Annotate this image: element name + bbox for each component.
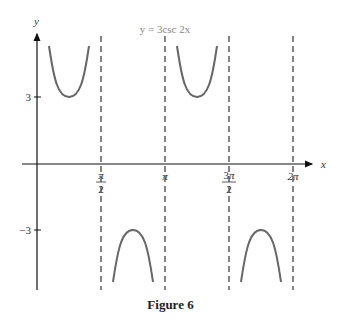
svg-text:π: π — [98, 169, 104, 181]
svg-text:π: π — [162, 170, 168, 182]
asymptotes — [101, 36, 293, 290]
chart-title: y = 3csc 2x — [140, 23, 191, 35]
x-axis-label: x — [320, 158, 326, 170]
y-tick-label-3: 3 — [26, 91, 32, 103]
figure-caption: Figure 6 — [0, 297, 341, 313]
svg-text:3π: 3π — [223, 169, 235, 181]
y-axis-label: y — [33, 15, 39, 27]
x-tick-labels: π 2 π 3π 2 2π — [96, 169, 299, 195]
chart: y x 3 −3 π 2 π 3π 2 2π y = 3csc 2x — [0, 0, 341, 323]
svg-text:2: 2 — [98, 183, 104, 195]
y-tick-label-neg3: −3 — [19, 224, 31, 236]
svg-text:2π: 2π — [287, 170, 299, 182]
svg-text:2: 2 — [226, 183, 232, 195]
